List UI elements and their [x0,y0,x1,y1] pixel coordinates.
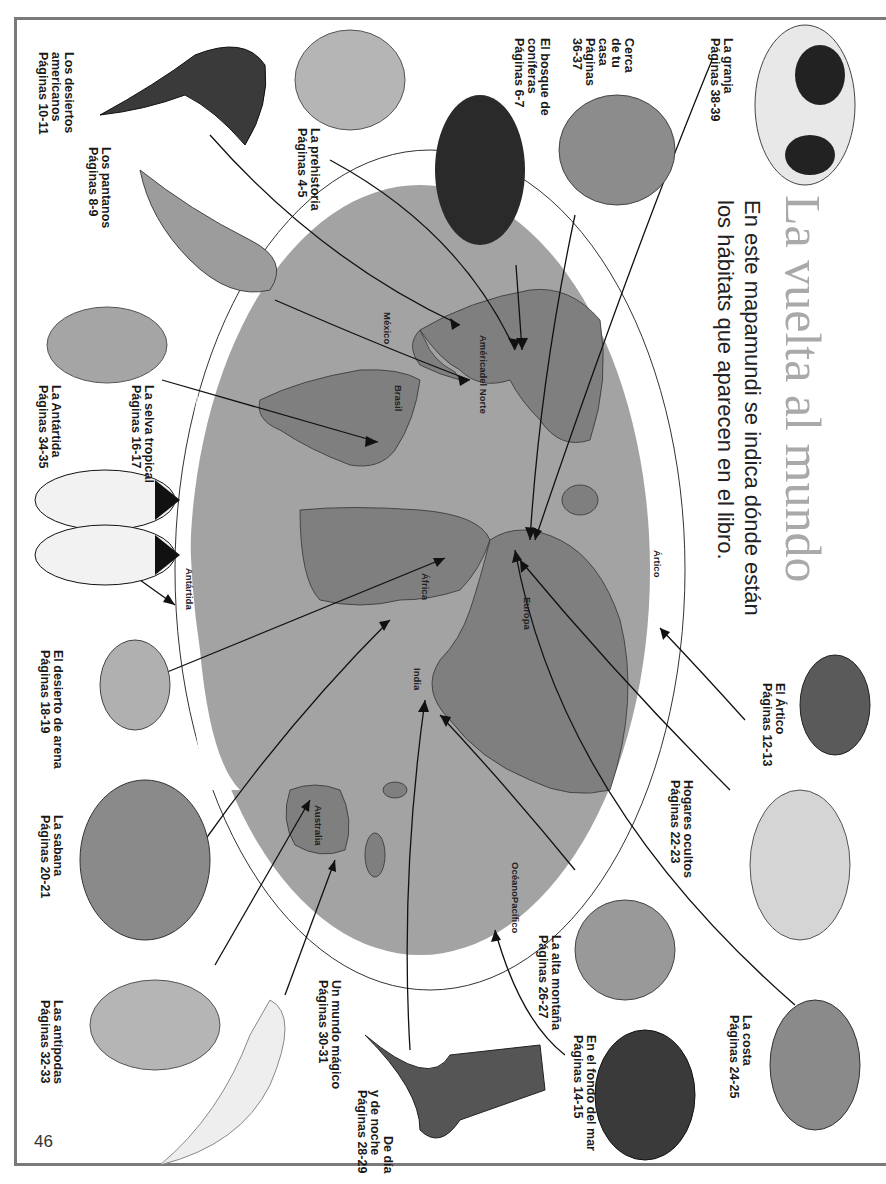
gila-monster-illustration [95,15,275,155]
hippo-illustration [75,775,215,945]
habitat-label-dia-y-noche: De día y de noche Páginas 28-29 [355,1090,394,1173]
habitat-label-sabana: La sabana Páginas 20-21 [38,815,64,898]
label-line: La granja [721,38,734,121]
manatee-illustration [130,150,290,300]
label-line: Páginas 28-29 [355,1090,368,1173]
map-label-pacific: OcéanoPacífico [510,862,520,933]
label-line: Páginas 22-23 [668,780,681,878]
label-line: Páginas [583,38,596,86]
habitat-label-costa: La costa Páginas 24-25 [727,1015,753,1098]
label-line: Páginas 6-7 [512,38,525,116]
label-line: Páginas 32-33 [38,1000,51,1084]
label-line: La selva tropical [142,385,155,483]
label-line: 36-37 [570,38,583,86]
label-line: Páginas 4-5 [295,128,308,211]
label-line: coníferas [525,38,538,116]
map-label-australia: Australia [313,805,323,846]
habitat-label-mundo-magico: Un mundo mágico Páginas 30-31 [316,980,342,1089]
habitat-label-bosque-coniferas: El bosque de coníferas Páginas 6-7 [512,38,551,116]
map-label-brazil: Brasil [393,385,403,411]
map-label-north-america: Américadel Norte [478,335,488,414]
deer-illustration [700,780,860,945]
sloth-illustration [12,285,172,395]
label-line: La Antártida [49,385,62,468]
label-line: El Ártico [773,683,786,766]
hermit-crab-illustration [755,985,865,1135]
label-line: Páginas 20-21 [38,815,51,898]
label-line: Páginas 14-15 [571,1035,584,1151]
label-line: Hogares ocultos [681,780,694,878]
habitat-label-pantanos: Los pantanos Páginas 8-9 [86,147,112,228]
habitat-label-artico: El Ártico Páginas 12-13 [760,683,786,766]
page-subtitle: En este mapamundi se indica dónde estánl… [712,200,766,616]
toad-illustration [555,85,680,215]
cow-illustration [740,15,865,190]
label-line: Páginas 38-39 [708,38,721,121]
pika-illustration [565,890,685,1010]
label-line: Páginas 18-19 [38,650,51,769]
subtitle-line: En este mapamundi se indica dónde están [739,200,766,616]
habitat-label-antipodas: Las antípodas Páginas 32-33 [38,1000,64,1084]
map-label-line: Pacífico [510,897,521,933]
habitat-label-antartida: La Antártida Páginas 34-35 [36,385,62,468]
habitat-label-fondo-del-mar: En el fondo del mar Páginas 14-15 [571,1035,597,1151]
habitat-label-desiertos-americanos: Los desiertos americanos Páginas 10-11 [36,52,75,135]
map-label-line: América [478,335,489,373]
label-line: La prehistoria [308,128,321,211]
label-line: Las antípodas [51,1000,64,1084]
triceratops-illustration [285,10,415,140]
habitat-label-hogares-ocultos: Hogares ocultos Páginas 22-23 [668,780,694,878]
label-line: Páginas 10-11 [36,52,49,135]
habitat-label-selva-tropical: La selva tropical Páginas 16-17 [129,385,155,483]
label-line: Un mundo mágico [329,980,342,1089]
anglerfish-illustration [590,1020,715,1175]
label-line: La alta montaña [549,935,562,1030]
label-line: La costa [740,1015,753,1098]
label-line: Páginas 12-13 [760,683,773,766]
page-number: 46 [34,1132,53,1152]
habitat-label-granja: La granja Páginas 38-39 [708,38,734,121]
map-label-line: del Norte [478,373,489,414]
label-line: Cerca [622,38,635,86]
label-line: Los pantanos [99,147,112,228]
label-line: americanos [49,52,62,135]
hammerhead-shark-illustration [150,995,310,1170]
label-line: casa [596,38,609,86]
map-label-mexico: México [382,312,392,344]
habitat-label-alta-montana: La alta montaña Páginas 26-27 [536,935,562,1030]
label-line: De día [381,1090,394,1173]
map-label-line: Océano [510,862,521,897]
label-line: Páginas 24-25 [727,1015,740,1098]
label-line: Páginas 16-17 [129,385,142,483]
map-label-africa: África [420,573,430,600]
label-line: La sabana [51,815,64,898]
map-label-arctic: Ártico [652,550,662,577]
label-line: En el fondo del mar [584,1035,597,1151]
label-line: Páginas 26-27 [536,935,549,1030]
label-line: y de noche [368,1090,381,1173]
label-line: Páginas 30-31 [316,980,329,1089]
label-line: El bosque de [538,38,551,116]
subtitle-line: los hábitats que aparecen en el libro. [712,200,739,616]
habitat-label-prehistoria: La prehistoria Páginas 4-5 [295,128,321,211]
map-label-antarctica: Antártida [184,568,194,610]
scorpion-illustration [80,605,185,755]
penguin-illustration [25,460,185,590]
habitat-label-desierto-arena: El desierto de arena Páginas 18-19 [38,650,64,769]
label-line: de tu [609,38,622,86]
lemming-illustration [795,650,875,760]
label-line: El desierto de arena [51,650,64,769]
label-line: Páginas 34-35 [36,385,49,468]
habitat-label-cerca-de-tu-casa: Cerca de tu casa Páginas 36-37 [570,38,635,86]
label-line: Páginas 8-9 [86,147,99,228]
label-line: Los desiertos [62,52,75,135]
map-label-india: India [412,668,422,690]
page-title: La vuelta al mundo [775,195,831,582]
map-label-europe: Europa [522,597,532,630]
